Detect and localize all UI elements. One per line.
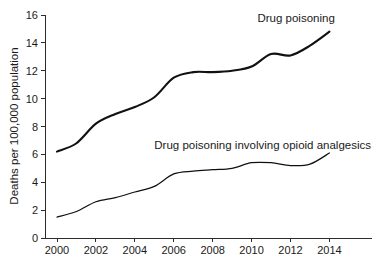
y-axis-tick-label: 12 [26,65,38,77]
x-axis-tick-label: 2008 [200,244,224,256]
y-axis-tick-label: 16 [26,9,38,21]
series-label-drug-poisoning: Drug poisoning [257,12,334,24]
x-axis-tick-label: 2000 [45,244,69,256]
x-axis-tick-label: 2004 [123,244,147,256]
series-label-opioid-analgesics: Drug poisoning involving opioid analgesi… [154,139,371,151]
chart-container: 0246810121416 20002002200420062008201020… [0,0,379,263]
y-axis-tick-label: 6 [32,148,38,160]
series-annotations: Drug poisoningDrug poisoning involving o… [154,12,371,151]
x-axis-tick-label: 2002 [84,244,108,256]
y-axis-tick-label: 10 [26,93,38,105]
series-line-opioid-analgesics [57,153,329,217]
y-axis-tick-label: 14 [26,37,38,49]
x-axis-tick-label: 2012 [278,244,302,256]
y-axis-tick-label: 2 [32,204,38,216]
y-axis-tick-label: 4 [32,176,38,188]
x-axis: 20002002200420062008201020122014 [45,238,372,256]
x-axis-tick-label: 2014 [317,244,341,256]
y-axis-title: Deaths per 100,000 population [8,47,20,204]
line-chart-svg: 0246810121416 20002002200420062008201020… [0,0,379,263]
x-axis-tick-label: 2010 [239,244,263,256]
x-axis-tick-label: 2006 [162,244,186,256]
y-axis-tick-label: 0 [32,232,38,244]
y-axis-tick-label: 8 [32,121,38,133]
y-axis: 0246810121416 [26,9,45,244]
series-lines [57,32,329,217]
series-line-drug-poisoning [57,32,329,152]
